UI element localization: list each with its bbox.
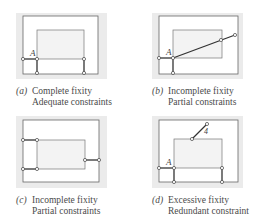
caption-title: Excessive fixity [168,195,229,205]
inner-body [174,139,222,168]
caption-subtitle: Redundant constraint [152,206,249,217]
caption-b: (b)Incomplete fixity Partial constraints [152,86,236,108]
caption-subtitle: Partial constraints [152,97,236,108]
panel-b: A (b)Incomplete fixity Partial constrain… [132,0,264,111]
point-label-a: A [166,47,172,57]
inner-body [37,140,85,169]
panel-a: A (a)Complete fixity Adequate constraint… [0,0,132,111]
caption-title: Incomplete fixity [32,195,98,205]
caption-tag: (a) [16,86,32,97]
point-label-a: A [30,48,36,58]
caption-d: (d)Excessive fixity Redundant constraint [152,195,249,217]
caption-tag: (d) [152,195,168,206]
caption-subtitle: Partial constraints [16,206,100,217]
caption-title: Complete fixity [32,86,92,96]
link-label: 4 [204,127,208,136]
inner-body [173,30,222,58]
caption-title: Incomplete fixity [168,86,234,96]
inner-body [37,30,84,59]
caption-tag: (b) [152,86,168,97]
point-label-a: A [166,157,172,167]
caption-a: (a)Complete fixity Adequate constraints [16,86,112,108]
panel-c: (c)Incomplete fixity Partial constraints [0,111,132,222]
caption-subtitle: Adequate constraints [16,97,112,108]
caption-tag: (c) [16,195,32,206]
panel-d: A 4 (d)Excessive fixity Redundant constr… [132,111,264,222]
caption-c: (c)Incomplete fixity Partial constraints [16,195,100,217]
